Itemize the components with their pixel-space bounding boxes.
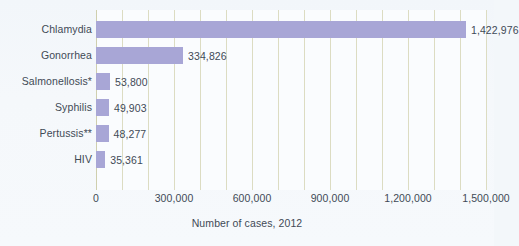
bar-row: 1,422,976 xyxy=(96,21,486,38)
tick-label: 0 xyxy=(93,192,99,204)
tick-label: 1,200,000 xyxy=(384,192,432,204)
tick-label: 1,500,000 xyxy=(462,192,510,204)
gridline xyxy=(486,10,487,190)
category-label: HIV xyxy=(0,153,92,165)
bar-row: 48,277 xyxy=(96,125,486,142)
bar-row: 334,826 xyxy=(96,47,486,64)
bar xyxy=(96,73,110,90)
category-label: Pertussis** xyxy=(0,127,92,139)
bar xyxy=(96,99,109,116)
category-label: Syphilis xyxy=(0,101,92,113)
bar xyxy=(96,151,105,168)
bar-value-label: 48,277 xyxy=(114,128,147,140)
bar-value-label: 53,800 xyxy=(115,76,148,88)
bar xyxy=(96,125,109,142)
value-axis-tick-labels: 0300,000600,000900,0001,200,0001,500,000 xyxy=(0,192,494,210)
tick-label: 600,000 xyxy=(233,192,272,204)
x-axis-title: Number of cases, 2012 xyxy=(0,217,494,229)
plot-area: 1,422,976334,82653,80049,90348,27735,361 xyxy=(96,10,486,190)
bar xyxy=(96,21,466,38)
category-label: Chlamydia xyxy=(0,23,92,35)
bar-row: 53,800 xyxy=(96,73,486,90)
bar-value-label: 49,903 xyxy=(114,102,147,114)
tick-label: 300,000 xyxy=(155,192,194,204)
bar-value-label: 334,826 xyxy=(188,50,227,62)
bar xyxy=(96,47,183,64)
category-axis-labels: ChlamydiaGonorrheaSalmonellosis*Syphilis… xyxy=(0,10,92,190)
bar-value-label: 35,361 xyxy=(110,154,143,166)
bar-row: 49,903 xyxy=(96,99,486,116)
category-label: Gonorrhea xyxy=(0,49,92,61)
bar-value-label: 1,422,976 xyxy=(471,24,519,36)
bar-row: 35,361 xyxy=(96,151,486,168)
tick-label: 900,000 xyxy=(311,192,350,204)
category-label: Salmonellosis* xyxy=(0,75,92,87)
